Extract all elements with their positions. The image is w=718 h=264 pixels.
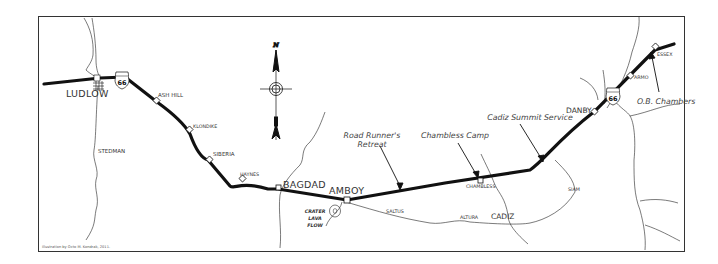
town-markers — [153, 43, 659, 203]
route-66-shield-icon: 66 — [115, 72, 129, 89]
town-label-cadiz: CADIZ — [491, 212, 515, 221]
flow-label: FLOW — [307, 223, 323, 228]
crater-label: CRATER — [305, 209, 326, 214]
business-label-chambless-camp: Chambless Camp — [421, 131, 489, 140]
route-66-road — [44, 44, 674, 200]
town-label-armo: ARMO — [634, 75, 649, 80]
town-label-saltus: SALTUS — [386, 209, 404, 214]
crater-lava-flow-icon — [330, 205, 341, 217]
town-label-ludlow: LUDLOW — [66, 88, 109, 99]
town-label-amboy: AMBOY — [329, 185, 364, 196]
town-label-altura: ALTURA — [460, 215, 479, 220]
town-label-siam: SIAM — [568, 187, 580, 192]
town-label-siberia: SIBERIA — [213, 151, 235, 157]
compass-north-arrow-icon: N — [260, 41, 292, 140]
town-label-chambless: CHAMBLESS — [466, 184, 495, 189]
svg-text:66: 66 — [117, 79, 127, 87]
town-label-haynes: HAYNES — [240, 172, 259, 177]
business-label-cadiz-summit: Cadiz Summit Service — [487, 113, 573, 122]
business-label-ob-chambers: O.B. Chambers — [637, 97, 695, 106]
svg-text:66: 66 — [608, 95, 618, 103]
town-label-essex: ESSEX — [657, 52, 673, 57]
lava-label: LAVA — [308, 216, 322, 221]
route-66-shield-icon: 66 — [606, 88, 620, 105]
town-label-ash-hill: ASH HILL — [158, 92, 184, 98]
business-label-road-runners-retreat: Retreat — [357, 140, 387, 149]
town-label-bagdad: BAGDAD — [283, 179, 326, 190]
route66-map: 66 66 N LUDLOW BAGDAD AMBOY CADIZ DANBY … — [0, 0, 718, 264]
business-label-road-runners: Road Runner's — [344, 131, 401, 140]
illustration-credit: Illustration by Octo M. Kondrak, 2011. — [42, 245, 110, 249]
svg-text:N: N — [272, 41, 279, 48]
town-label-stedman: STEDMAN — [98, 148, 125, 154]
town-label-klondike: KLONDIKE — [193, 124, 217, 129]
